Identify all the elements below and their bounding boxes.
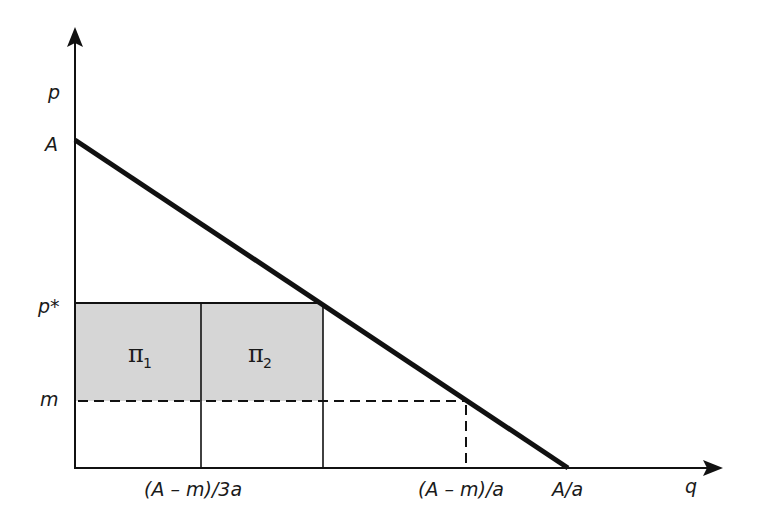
svg-text:π: π [248, 340, 264, 368]
y-axis-label: p [47, 81, 60, 103]
svg-text:2: 2 [263, 355, 272, 371]
svg-text:π: π [128, 340, 144, 368]
y-tick-m: m [40, 388, 59, 410]
svg-text:1: 1 [143, 355, 152, 371]
diagram-canvas: p q A p* m (A – m)/3a (A – m)/a A/a π 1 … [0, 0, 759, 527]
x-tick-third: (A – m)/3a [144, 478, 242, 500]
y-tick-A: A [43, 133, 58, 155]
y-tick-p-star: p* [37, 295, 60, 317]
x-tick-intercept: A/a [550, 478, 583, 500]
x-axis-label: q [685, 475, 697, 497]
x-tick-full: (A – m)/a [418, 478, 504, 500]
